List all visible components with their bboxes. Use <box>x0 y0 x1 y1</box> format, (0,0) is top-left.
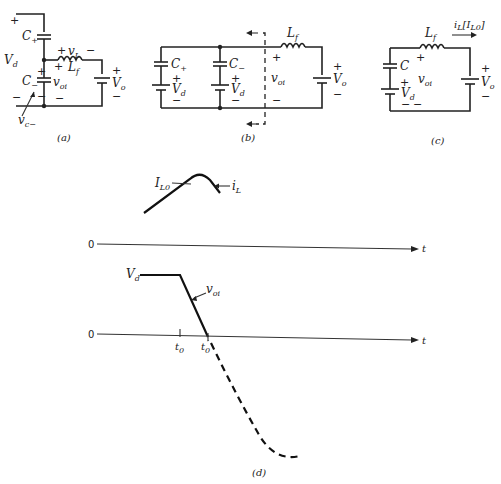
t-axis-label: t <box>422 243 427 254</box>
plus-sign: + <box>272 51 281 64</box>
caption-b: (b) <box>241 132 255 143</box>
figure-canvas: + C+ Vd + vL − + Lf + C− voi + Vo − − − … <box>0 0 501 484</box>
c-plus-label: C <box>22 29 31 43</box>
voi-sub: oi <box>60 82 68 91</box>
svg-text:Vo: Vo <box>481 75 495 91</box>
Vd-sub: d <box>135 274 140 283</box>
svg-text:Lf: Lf <box>286 26 300 42</box>
arrowhead <box>471 32 477 38</box>
svg-text:iL[IL0]: iL[IL0] <box>454 19 485 32</box>
circuit-panel-b: C+ + Vd − C− + Vd − + voi − Lf + Vo − (b… <box>152 26 347 143</box>
svg-text:C+: C+ <box>22 29 38 45</box>
plus-sign: + <box>54 60 63 73</box>
minus-sign: − <box>37 90 46 103</box>
svg-text:Vo: Vo <box>333 72 347 88</box>
t0p-sub: 0 <box>205 346 210 355</box>
svg-text:IL0: IL0 <box>154 176 170 192</box>
wire <box>82 60 102 74</box>
voi-sub: oi <box>213 289 221 298</box>
svg-text:voi: voi <box>53 75 68 91</box>
plus-sign: + <box>416 51 425 64</box>
svg-text:Vd: Vd <box>126 267 140 283</box>
zero-label: 0 <box>88 329 94 340</box>
Lf-label: L <box>424 26 433 40</box>
node-dot <box>42 104 46 108</box>
voi-sub: oi <box>425 79 433 88</box>
minus-sign: − <box>86 44 95 57</box>
plus-sign: + <box>57 44 66 57</box>
svg-text:iL: iL <box>232 179 241 195</box>
c-minus-label: C <box>22 74 31 88</box>
svg-text:C−: C− <box>229 57 245 73</box>
vo-sub: o <box>121 83 126 92</box>
Lf-sub: f <box>75 67 81 76</box>
IL0-marker <box>172 183 191 184</box>
Lf-sub: f <box>432 33 438 42</box>
vd-sub: d <box>181 89 186 98</box>
vo-sub: o <box>490 82 495 91</box>
svg-text:vc−: vc− <box>18 113 36 129</box>
IL0-sub: L0 <box>469 23 480 32</box>
minus-sign: − <box>231 94 240 107</box>
Lf-sub: f <box>294 33 300 42</box>
circuit-panel-c: Lf iL[IL0] + C voi + Vd − − + Vo − (c) <box>381 19 495 146</box>
svg-text:voi: voi <box>206 282 221 298</box>
svg-text:C+: C+ <box>171 57 187 73</box>
svg-text:Lf: Lf <box>424 26 438 42</box>
caption-c: (c) <box>431 135 445 146</box>
minus-sign: − <box>401 98 410 111</box>
plus-sign: + <box>481 62 490 75</box>
inductor <box>420 45 444 49</box>
svg-text:t0′: t0′ <box>201 338 210 355</box>
vc-minus-sub: c− <box>25 120 36 129</box>
inductor <box>281 44 305 48</box>
vd-sub: d <box>240 89 245 98</box>
voi-projection-dashed <box>211 343 300 457</box>
caption-d: (d) <box>252 467 266 478</box>
svg-text:voi: voi <box>271 71 286 87</box>
IL0-sub: L0 <box>159 183 170 192</box>
Lf-label: L <box>286 26 295 40</box>
iL-sub: L <box>235 186 241 195</box>
vo-sub: o <box>342 79 347 88</box>
zero-label: 0 <box>88 239 94 250</box>
prime-mark: ′ <box>207 338 209 347</box>
arrowhead <box>30 92 35 97</box>
minus-sign: − <box>172 94 181 107</box>
t-axis-label: t <box>422 335 427 346</box>
svg-text:C−: C− <box>22 74 38 90</box>
circuit-panel-a: + C+ Vd + vL − + Lf + C− voi + Vo − − − … <box>4 14 126 143</box>
axis-arrowhead <box>411 246 419 252</box>
wire <box>444 48 470 76</box>
plus-sign: + <box>37 65 46 78</box>
plus-sign: + <box>10 14 19 27</box>
c-minus-label: C <box>229 57 238 71</box>
c-label: C <box>400 59 409 73</box>
bracket: ] <box>480 19 485 30</box>
voi-sub: oi <box>278 78 286 87</box>
c-minus-sub: − <box>31 81 38 90</box>
minus-sign: − <box>413 98 422 111</box>
time-axis-iL <box>97 244 412 249</box>
svg-text:voi: voi <box>418 72 433 88</box>
vd-sub: d <box>13 60 18 69</box>
wire <box>305 47 322 75</box>
t0-sub: 0 <box>179 346 184 355</box>
waveform-panel-d: IL0 iL 0 t Vd voi 0 t t0 t0′ (d) <box>88 175 427 478</box>
svg-text:t0: t0 <box>175 341 184 355</box>
node-dot <box>218 106 222 110</box>
Lf-label: L <box>67 60 76 74</box>
minus-sign: − <box>112 90 121 103</box>
minus-sign: − <box>12 91 21 104</box>
arrowhead <box>246 30 252 36</box>
vL-sub: L <box>74 51 80 60</box>
c-plus-sub: + <box>31 36 38 45</box>
axis-arrowhead <box>411 337 419 343</box>
time-axis-voi <box>97 334 412 340</box>
arrowhead <box>246 121 252 127</box>
svg-text:Lf: Lf <box>67 60 81 76</box>
minus-sign: − <box>55 92 64 105</box>
svg-text:vL: vL <box>68 44 80 60</box>
minus-sign: − <box>272 94 281 107</box>
voi-curve <box>140 275 208 337</box>
